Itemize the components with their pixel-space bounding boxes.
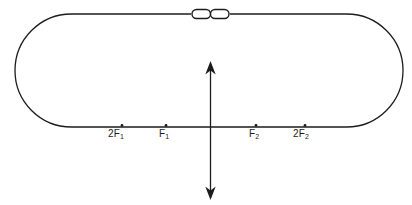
tick-2f2 — [304, 124, 307, 127]
tick-2f1 — [121, 124, 124, 127]
top-link-left-shape — [192, 10, 211, 19]
label-2f2: 2F2 — [293, 129, 309, 140]
diagram-canvas — [0, 0, 412, 205]
label-f2: F2 — [249, 129, 259, 140]
label-2f1-sub: 1 — [120, 133, 124, 140]
label-2f1: 2F1 — [108, 129, 124, 140]
top-link-right-shape — [211, 10, 230, 19]
loop-top-links — [192, 10, 229, 19]
label-2f2-sub: 2 — [305, 133, 309, 140]
tick-f1 — [165, 124, 168, 127]
lens-loop-diagram: 2F1 F1 F2 2F2 — [0, 0, 412, 205]
label-f1-sub: 1 — [165, 133, 169, 140]
lens-arrow — [205, 61, 215, 200]
label-f1: F1 — [159, 129, 169, 140]
tick-f2 — [255, 124, 258, 127]
label-f2-sub: 2 — [255, 133, 259, 140]
label-2f2-base: 2F — [293, 128, 305, 139]
label-2f1-base: 2F — [108, 128, 120, 139]
